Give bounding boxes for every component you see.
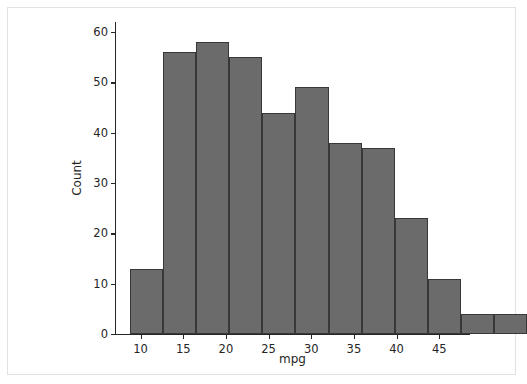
- y-axis-spine: [115, 22, 116, 334]
- histogram-bar: [329, 143, 362, 334]
- y-tick-label: 60: [93, 25, 108, 39]
- x-axis-label: mpg: [115, 352, 470, 366]
- plot-area: 0102030405060 1015202530354045: [115, 22, 470, 334]
- y-tick-label: 40: [93, 126, 108, 140]
- y-tick-mark: [111, 284, 116, 285]
- y-tick-mark: [111, 133, 116, 134]
- x-tick-mark: [269, 334, 270, 339]
- y-tick-mark: [111, 183, 116, 184]
- x-tick-mark: [141, 334, 142, 339]
- histogram-bar: [229, 57, 262, 334]
- histogram-bar: [461, 314, 494, 334]
- histogram-bar: [163, 52, 196, 334]
- y-tick-label: 10: [93, 277, 108, 291]
- histogram-bar: [428, 279, 461, 334]
- x-tick-mark: [183, 334, 184, 339]
- histogram-bar: [395, 218, 428, 334]
- x-tick-mark: [439, 334, 440, 339]
- x-tick-mark: [354, 334, 355, 339]
- y-tick-label: 0: [101, 327, 108, 341]
- histogram-bar: [362, 148, 395, 334]
- y-tick-mark: [111, 233, 116, 234]
- y-tick-mark: [111, 82, 116, 83]
- y-axis-label: Count: [70, 160, 84, 196]
- histogram-bar: [494, 314, 527, 334]
- y-tick-label: 50: [93, 75, 108, 89]
- x-tick-mark: [226, 334, 227, 339]
- x-axis-spine: [115, 334, 470, 335]
- y-tick-mark: [111, 334, 116, 335]
- x-tick-mark: [397, 334, 398, 339]
- x-tick-mark: [311, 334, 312, 339]
- histogram-bar: [130, 269, 163, 334]
- y-tick-mark: [111, 32, 116, 33]
- y-tick-label: 30: [93, 176, 108, 190]
- histogram-bar: [295, 87, 328, 334]
- histogram-bar: [196, 42, 229, 334]
- chart-axes: 0102030405060 1015202530354045: [115, 22, 470, 334]
- histogram-bar: [262, 113, 295, 334]
- y-tick-label: 20: [93, 226, 108, 240]
